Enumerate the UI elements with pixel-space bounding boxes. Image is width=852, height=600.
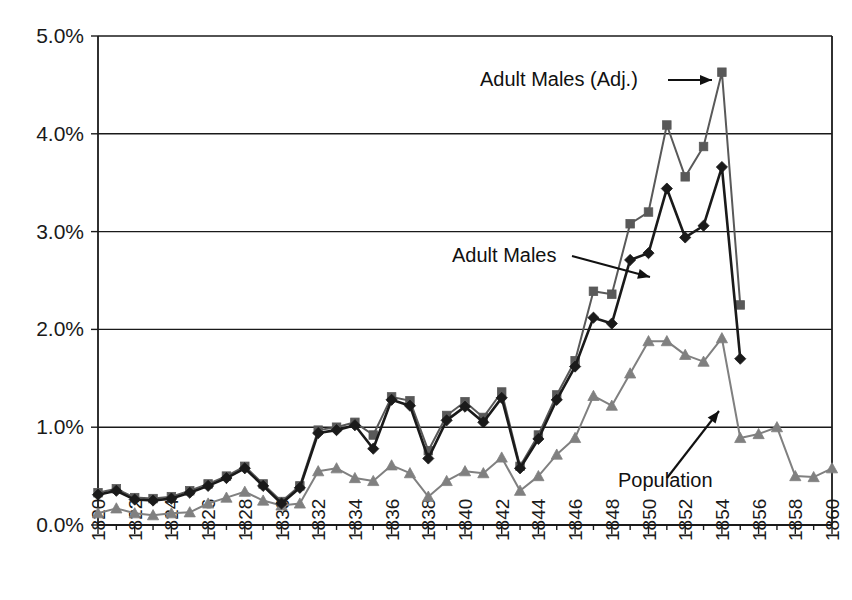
data-point-square bbox=[718, 68, 727, 77]
annotation-label: Adult Males bbox=[452, 244, 557, 266]
data-point-square bbox=[589, 287, 598, 296]
x-axis-tick-label: 1852 bbox=[675, 499, 696, 541]
x-axis-tick-label: 1844 bbox=[528, 498, 549, 541]
y-axis-tick-label: 5.0% bbox=[36, 24, 84, 47]
x-axis-tick-label: 1840 bbox=[455, 499, 476, 541]
y-axis-tick-label: 0.0% bbox=[36, 513, 84, 536]
x-axis-tick-label: 1858 bbox=[785, 499, 806, 541]
x-axis-tick-label: 1836 bbox=[382, 499, 403, 541]
x-axis-tick-label: 1838 bbox=[418, 499, 439, 541]
x-axis-tick-label: 1824 bbox=[161, 498, 182, 541]
y-axis-tick-label: 4.0% bbox=[36, 122, 84, 145]
y-axis-tick-label: 1.0% bbox=[36, 415, 84, 438]
data-point-square bbox=[663, 121, 672, 130]
x-axis-tick-label: 1834 bbox=[345, 498, 366, 541]
x-axis-tick-label: 1850 bbox=[639, 499, 660, 541]
chart-container: 0.0%1.0%2.0%3.0%4.0%5.0% 182018221824182… bbox=[0, 0, 852, 600]
x-axis-tick-label: 1832 bbox=[308, 499, 329, 541]
x-axis-tick-label: 1854 bbox=[712, 498, 733, 541]
x-axis-tick-label: 1820 bbox=[88, 499, 109, 541]
line-chart: 0.0%1.0%2.0%3.0%4.0%5.0% 182018221824182… bbox=[0, 0, 852, 600]
annotation-label: Adult Males (Adj.) bbox=[480, 68, 638, 90]
x-axis-tick-label: 1846 bbox=[565, 499, 586, 541]
data-point-square bbox=[736, 301, 745, 310]
data-point-square bbox=[626, 220, 635, 229]
x-axis-tick-label: 1842 bbox=[492, 499, 513, 541]
data-point-square bbox=[644, 208, 653, 217]
y-axis-tick-label: 2.0% bbox=[36, 317, 84, 340]
x-axis-tick-label: 1856 bbox=[749, 499, 770, 541]
annotation-label: Population bbox=[618, 469, 713, 491]
x-axis-labels: 1820182218241826182818301832183418361838… bbox=[88, 498, 843, 541]
data-point-square bbox=[681, 173, 690, 182]
x-axis-tick-label: 1860 bbox=[822, 499, 843, 541]
data-point-square bbox=[699, 142, 708, 151]
x-axis-tick-label: 1828 bbox=[235, 499, 256, 541]
data-point-square bbox=[608, 290, 617, 299]
x-axis-tick-label: 1848 bbox=[602, 499, 623, 541]
y-axis-tick-label: 3.0% bbox=[36, 220, 84, 243]
